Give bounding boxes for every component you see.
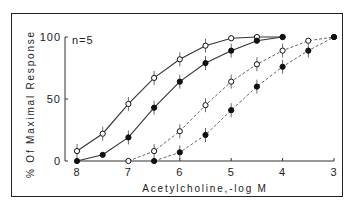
data-point <box>306 38 311 43</box>
data-point <box>331 34 336 39</box>
data-point <box>177 129 182 134</box>
data-point <box>229 79 234 84</box>
data-point <box>280 48 285 53</box>
data-point <box>126 158 131 163</box>
data-point <box>229 108 234 113</box>
data-point <box>126 135 131 140</box>
x-tick-label: 8 <box>73 166 80 178</box>
data-point <box>203 60 208 65</box>
data-point <box>203 43 208 48</box>
data-point <box>203 103 208 108</box>
series-1 <box>74 34 285 158</box>
x-tick-label: 4 <box>279 166 286 178</box>
data-point <box>152 75 157 80</box>
data-point <box>152 158 157 163</box>
data-point <box>100 131 105 136</box>
data-point <box>152 105 157 110</box>
y-tick-label: 100 <box>40 31 61 43</box>
n-annotation: n=5 <box>72 34 94 46</box>
x-tick-label: 3 <box>330 166 337 178</box>
x-tick-label: 5 <box>228 166 235 178</box>
data-point <box>306 48 311 53</box>
data-point <box>74 158 79 163</box>
data-point <box>203 132 208 137</box>
data-point <box>74 148 79 153</box>
y-tick-label: 50 <box>47 93 61 105</box>
data-point <box>177 57 182 62</box>
data-point <box>100 152 105 157</box>
data-point <box>126 101 131 106</box>
data-point <box>177 79 182 84</box>
data-point <box>254 38 259 43</box>
x-tick-label: 7 <box>125 166 132 178</box>
dose-response-chart: 050100876543Acetylcholine,-log M% Of Max… <box>0 0 356 204</box>
data-point <box>254 62 259 67</box>
data-point <box>280 34 285 39</box>
data-point <box>229 48 234 53</box>
x-axis-label: Acetylcholine,-log M <box>142 183 267 194</box>
data-point <box>280 64 285 69</box>
y-tick-label: 0 <box>54 155 61 167</box>
data-point <box>152 148 157 153</box>
data-point <box>177 150 182 155</box>
y-axis-label: % Of Maximal Response <box>25 30 36 178</box>
data-point <box>229 36 234 41</box>
series-4 <box>152 34 337 163</box>
x-tick-label: 6 <box>176 166 183 178</box>
data-point <box>254 84 259 89</box>
